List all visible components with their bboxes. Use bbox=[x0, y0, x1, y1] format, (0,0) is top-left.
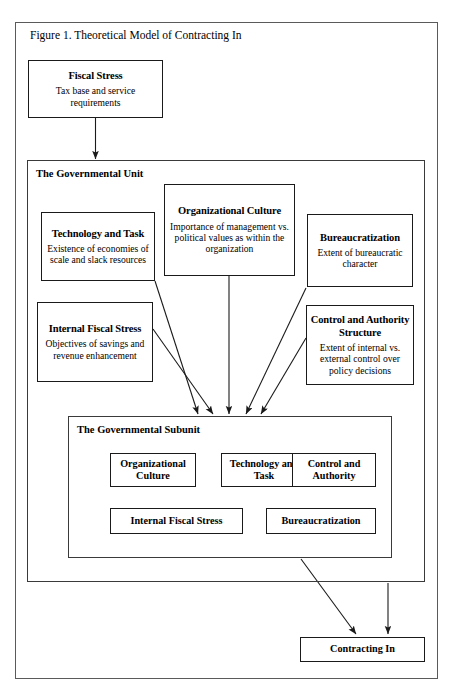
node-fiscal-stress-body: Tax base and service requirements bbox=[29, 85, 162, 108]
node-contracting-in[interactable]: Contracting In bbox=[300, 637, 425, 662]
node-internal-fiscal-stress-body: Objectives of savings and revenue enhanc… bbox=[38, 338, 152, 361]
subunit-item-label: Organizational Culture bbox=[111, 458, 195, 482]
subunit-item-internal-fiscal-stress[interactable]: Internal Fiscal Stress bbox=[110, 508, 243, 534]
node-technology-and-task-title: Technology and Task bbox=[52, 228, 144, 240]
node-control-and-authority-structure[interactable]: Control and Authority Structure Extent o… bbox=[306, 305, 414, 385]
node-organizational-culture-title: Organizational Culture bbox=[178, 205, 281, 217]
container-governmental-subunit bbox=[68, 416, 392, 558]
node-fiscal-stress[interactable]: Fiscal Stress Tax base and service requi… bbox=[28, 60, 163, 118]
node-organizational-culture[interactable]: Organizational Culture Importance of man… bbox=[164, 184, 295, 276]
container-governmental-unit-title: The Governmental Unit bbox=[36, 168, 143, 179]
node-bureaucratization-title: Bureaucratization bbox=[320, 232, 400, 244]
node-technology-and-task-body: Existence of economies of scale and slac… bbox=[42, 243, 154, 266]
figure-canvas: Figure 1. Theoretical Model of Contracti… bbox=[0, 0, 459, 696]
figure-caption: Figure 1. Theoretical Model of Contracti… bbox=[30, 29, 242, 41]
node-control-and-authority-structure-title: Control and Authority Structure bbox=[307, 314, 413, 339]
node-technology-and-task[interactable]: Technology and Task Existence of economi… bbox=[41, 212, 155, 281]
subunit-item-label: Control and Authority bbox=[293, 458, 375, 482]
node-internal-fiscal-stress-title: Internal Fiscal Stress bbox=[49, 323, 142, 335]
subunit-item-organizational-culture[interactable]: Organizational Culture bbox=[110, 453, 196, 487]
container-governmental-subunit-title: The Governmental Subunit bbox=[77, 424, 200, 435]
node-control-and-authority-structure-body: Extent of internal vs. external control … bbox=[307, 342, 413, 376]
subunit-item-control-and-authority[interactable]: Control and Authority bbox=[292, 453, 376, 487]
node-internal-fiscal-stress[interactable]: Internal Fiscal Stress Objectives of sav… bbox=[37, 302, 153, 382]
subunit-item-label: Bureaucratization bbox=[281, 515, 360, 527]
node-bureaucratization[interactable]: Bureaucratization Extent of bureaucratic… bbox=[307, 214, 413, 287]
node-bureaucratization-body: Extent of bureaucratic character bbox=[308, 247, 412, 270]
node-organizational-culture-body: Importance of management vs. political v… bbox=[165, 221, 294, 255]
node-contracting-in-title: Contracting In bbox=[330, 643, 395, 655]
subunit-item-label: Internal Fiscal Stress bbox=[130, 515, 222, 527]
subunit-item-bureaucratization[interactable]: Bureaucratization bbox=[266, 508, 376, 534]
node-fiscal-stress-title: Fiscal Stress bbox=[68, 70, 122, 82]
